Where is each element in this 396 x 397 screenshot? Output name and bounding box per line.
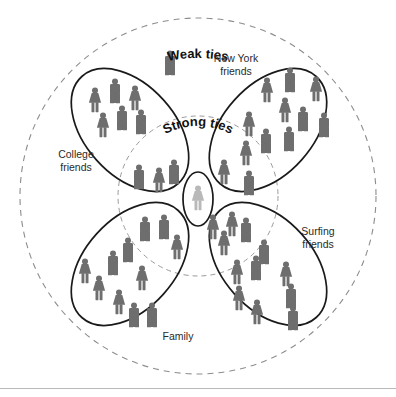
person-figure xyxy=(243,111,255,136)
person-figure xyxy=(93,275,105,300)
person-figure xyxy=(129,302,139,327)
person-figure xyxy=(261,77,273,102)
person-figure xyxy=(279,97,291,122)
cluster-label-line: Surfing xyxy=(301,225,334,237)
cluster-label-line: friends xyxy=(302,238,334,250)
person-figure xyxy=(117,105,127,130)
cluster-members-surfing-friends xyxy=(207,211,298,330)
person-figure xyxy=(79,258,91,283)
person-figure xyxy=(147,302,157,327)
person-figure xyxy=(288,305,298,330)
cluster-label-surfing-friends: Surfing friends xyxy=(301,225,334,250)
page-divider-rule xyxy=(0,388,396,389)
person-figure xyxy=(113,289,125,314)
person-figure xyxy=(259,239,269,264)
person-figure xyxy=(159,214,169,239)
cluster-label-line: New York xyxy=(214,52,259,64)
person-figure xyxy=(134,164,144,189)
person-figure xyxy=(226,211,238,236)
person-figure xyxy=(286,283,296,308)
person-figure xyxy=(251,299,263,324)
cluster-members-college-friends xyxy=(89,78,146,137)
person-figure xyxy=(140,216,150,241)
person-figure xyxy=(136,109,146,134)
person-figure xyxy=(129,85,141,110)
person-figure xyxy=(241,217,251,242)
person-figure xyxy=(284,126,294,151)
cluster-members-family xyxy=(79,214,183,327)
network-canvas: Weak ties Strong ties College friends Ne… xyxy=(0,0,396,397)
person-figure xyxy=(319,112,329,137)
person-figure xyxy=(218,230,230,255)
strong-ties-label: Strong ties xyxy=(160,114,235,137)
cluster-label-line: Family xyxy=(163,330,195,342)
person-figure xyxy=(136,265,148,290)
cluster-label-line: friends xyxy=(220,65,252,77)
person-figure xyxy=(171,234,183,259)
person-figure xyxy=(261,128,271,153)
cluster-label-college-friends: College friends xyxy=(58,148,94,173)
person-figure xyxy=(97,112,109,137)
person-figure xyxy=(153,167,165,192)
social-network-diagram: Weak ties Strong ties College friends Ne… xyxy=(0,0,396,397)
person-figure xyxy=(233,285,245,310)
ego-group[interactable] xyxy=(183,172,213,226)
cluster-label-line: friends xyxy=(60,161,92,173)
person-figure xyxy=(285,67,295,92)
person-figure xyxy=(244,170,254,195)
person-figure xyxy=(280,261,292,286)
person-figure xyxy=(218,159,230,184)
person-figure xyxy=(108,250,118,275)
page-footer-clipped-text xyxy=(0,390,396,397)
person-figure xyxy=(89,87,101,112)
person-figure xyxy=(298,106,308,131)
person-figure xyxy=(169,159,179,184)
person-figure xyxy=(240,140,252,165)
person-figure xyxy=(110,78,120,103)
cluster-label-family: Family xyxy=(163,330,195,342)
cluster-label-line: College xyxy=(58,148,94,160)
person-figure xyxy=(123,237,133,262)
cluster-label-new-york-friends: New York friends xyxy=(214,52,259,77)
person-figure xyxy=(231,259,243,284)
